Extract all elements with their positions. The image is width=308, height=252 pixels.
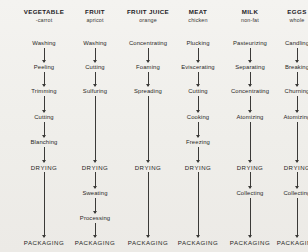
- flow-arrow-icon: [297, 122, 298, 162]
- flow-arrow-icon: [297, 72, 298, 86]
- process-step: Collecting: [261, 190, 308, 196]
- column-header-title: EGGS: [251, 9, 308, 16]
- flow-arrow-icon: [95, 72, 96, 86]
- flow-arrow-icon: [297, 96, 298, 112]
- process-step: Atomizing: [261, 114, 308, 120]
- flow-arrow-icon: [44, 122, 45, 137]
- flow-arrow-icon: [198, 122, 199, 137]
- flow-arrow-icon: [44, 72, 45, 86]
- flow-arrow-icon: [297, 172, 298, 188]
- flow-arrow-icon: [95, 96, 96, 162]
- process-step: Blanching: [8, 139, 80, 145]
- flow-arrow-icon: [95, 48, 96, 62]
- process-step: Sweating: [59, 190, 131, 196]
- flow-arrow-icon: [95, 172, 96, 188]
- column-header-subtitle: whole: [251, 17, 308, 23]
- process-flowchart: VEGETABLE-carrotWashingPeelingTrimmingCu…: [0, 0, 308, 252]
- flow-arrow-icon: [148, 172, 149, 237]
- flow-arrow-icon: [198, 72, 199, 86]
- process-step: Churning: [261, 88, 308, 94]
- process-step: Candling: [261, 40, 308, 46]
- flow-arrow-icon: [95, 198, 96, 213]
- flow-arrow-icon: [148, 96, 149, 162]
- flow-arrow-icon: [44, 172, 45, 237]
- flow-arrow-icon: [148, 72, 149, 86]
- flow-arrow-icon: [250, 72, 251, 86]
- flow-arrow-icon: [297, 198, 298, 237]
- column-header-eggs: EGGSwhole: [251, 9, 308, 23]
- flow-arrow-icon: [198, 48, 199, 62]
- process-step: Cutting: [8, 114, 80, 120]
- flow-arrow-icon: [297, 48, 298, 62]
- process-step: Breaking: [261, 64, 308, 70]
- flow-arrow-icon: [198, 147, 199, 162]
- flow-arrow-icon: [250, 198, 251, 237]
- process-step: PACKAGING: [261, 239, 308, 246]
- flow-arrow-icon: [95, 223, 96, 237]
- flow-arrow-icon: [198, 96, 199, 112]
- process-step: Freezing: [162, 139, 234, 145]
- flow-arrow-icon: [148, 48, 149, 62]
- process-step: Processing: [59, 215, 131, 221]
- flow-arrow-icon: [44, 96, 45, 112]
- flow-arrow-icon: [250, 122, 251, 162]
- flow-arrow-icon: [250, 48, 251, 62]
- flow-arrow-icon: [198, 172, 199, 237]
- flow-arrow-icon: [250, 172, 251, 188]
- flow-arrow-icon: [44, 48, 45, 62]
- process-step: DRYING: [261, 164, 308, 171]
- flow-arrow-icon: [250, 96, 251, 112]
- flow-arrow-icon: [44, 147, 45, 162]
